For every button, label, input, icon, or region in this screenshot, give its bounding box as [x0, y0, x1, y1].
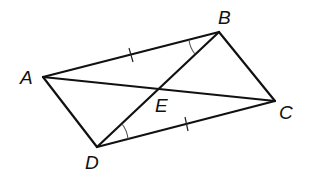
angle-arc-B: [189, 40, 195, 54]
vertex-label-D: D: [85, 152, 99, 173]
vertex-label-C: C: [279, 102, 293, 123]
side-BC: [219, 32, 275, 101]
geometry-diagram: A B C D E: [0, 0, 309, 195]
side-DA: [43, 77, 97, 147]
diagonal-BD: [97, 32, 219, 147]
vertex-label-B: B: [218, 7, 231, 28]
vertex-label-A: A: [19, 67, 33, 88]
angle-arc-D: [122, 124, 128, 139]
point-label-E: E: [155, 95, 168, 116]
